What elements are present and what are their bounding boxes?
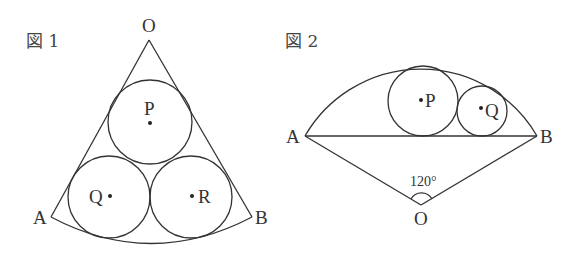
diagram-canvas: 図 1 O A B P Q R 図 2 120°	[0, 0, 570, 260]
label-B: B	[540, 126, 553, 147]
angle-label: 120°	[410, 174, 437, 189]
figure-2: 図 2 120° P Q A B O	[285, 31, 553, 229]
label-A: A	[286, 126, 300, 147]
label-A: A	[33, 207, 47, 228]
figure-1: 図 1 O A B P Q R	[26, 15, 268, 244]
center-P-dot	[419, 98, 423, 102]
label-O: O	[414, 208, 428, 229]
label-B: B	[255, 207, 268, 228]
center-Q-dot	[479, 106, 483, 110]
circle-Q	[457, 86, 507, 136]
label-P: P	[144, 98, 155, 119]
label-P: P	[425, 90, 436, 111]
center-Q-dot	[108, 194, 112, 198]
angle-mark-O	[411, 193, 432, 199]
arc-AB	[51, 217, 252, 244]
segment-OA	[305, 136, 421, 205]
center-P-dot	[148, 121, 152, 125]
segment-OB	[421, 136, 537, 205]
figure-2-title: 図 2	[285, 31, 318, 51]
circle-P	[388, 66, 458, 136]
figure-1-title: 図 1	[26, 31, 59, 51]
label-Q: Q	[485, 100, 499, 121]
label-Q: Q	[89, 186, 103, 207]
label-O: O	[142, 15, 156, 36]
center-R-dot	[190, 194, 194, 198]
label-R: R	[198, 186, 211, 207]
